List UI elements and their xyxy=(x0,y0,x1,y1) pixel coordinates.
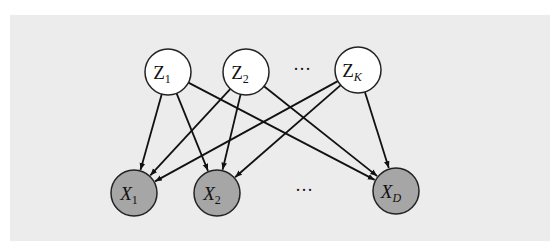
node-z1: Z1 xyxy=(145,49,191,95)
node-zk: ZK xyxy=(335,47,381,93)
latent-ellipsis: ··· xyxy=(293,59,311,79)
observed-ellipsis: ··· xyxy=(295,180,313,200)
node-x1: X1 xyxy=(111,170,157,216)
diagram-background-panel xyxy=(10,15,550,241)
node-z2: Z2 xyxy=(223,49,269,95)
node-xd: XD xyxy=(373,168,419,214)
node-x2: X2 xyxy=(194,170,240,216)
graphical-model-diagram: Z1 Z2 ··· ZK X1 X2 ··· XD xyxy=(0,0,557,244)
